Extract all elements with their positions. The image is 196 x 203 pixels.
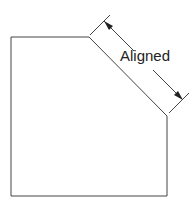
dimension-label: Aligned (120, 47, 170, 64)
diagram-canvas: Aligned (0, 0, 196, 203)
diagram-drawing (0, 0, 196, 203)
